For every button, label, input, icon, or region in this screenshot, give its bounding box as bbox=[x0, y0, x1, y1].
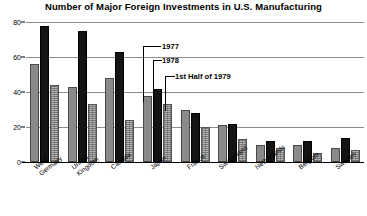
bar-group bbox=[327, 22, 365, 162]
y-tick-label-60: 60 bbox=[13, 54, 21, 61]
bar bbox=[181, 110, 190, 163]
x-label-cell: Canada bbox=[101, 163, 139, 216]
bar bbox=[218, 125, 227, 162]
x-label-cell: WestGermany bbox=[26, 163, 64, 216]
bar-group bbox=[289, 22, 327, 162]
y-tick-label-80: 80 bbox=[13, 19, 21, 26]
bar bbox=[293, 145, 302, 163]
x-label-cell: Belgium bbox=[289, 163, 327, 216]
x-label-cell: France bbox=[176, 163, 214, 216]
bar bbox=[163, 104, 172, 162]
x-label-cell: Netherlands bbox=[251, 163, 289, 216]
y-tick-label-0: 0 bbox=[17, 159, 21, 166]
y-tick-mark-20 bbox=[21, 127, 25, 128]
y-tick-mark-40 bbox=[21, 92, 25, 93]
bar bbox=[68, 87, 77, 162]
bar bbox=[105, 78, 114, 162]
bar bbox=[40, 26, 49, 163]
plot-area: 020406080 bbox=[26, 22, 364, 162]
y-tick-mark-60 bbox=[21, 57, 25, 58]
bar-group bbox=[176, 22, 214, 162]
x-axis-labels: WestGermanyUnitedKingdomCanadaJapanFranc… bbox=[26, 163, 364, 216]
x-label-cell: Japan bbox=[139, 163, 177, 216]
bar bbox=[153, 89, 162, 163]
bar-chart: Number of Major Foreign Investments in U… bbox=[0, 0, 367, 216]
chart-title: Number of Major Foreign Investments in U… bbox=[0, 1, 367, 12]
bar-group bbox=[26, 22, 64, 162]
y-tick-label-20: 20 bbox=[13, 124, 21, 131]
bar bbox=[143, 96, 152, 163]
bar bbox=[78, 31, 87, 162]
y-tick-mark-80 bbox=[21, 22, 25, 23]
bar-group bbox=[64, 22, 102, 162]
bar-group bbox=[251, 22, 289, 162]
x-label-cell: Sweden bbox=[327, 163, 365, 216]
bar-group bbox=[139, 22, 177, 162]
bar-group bbox=[101, 22, 139, 162]
x-label-cell: Switzerland bbox=[214, 163, 252, 216]
y-tick-label-40: 40 bbox=[13, 89, 21, 96]
x-label-cell: UnitedKingdom bbox=[64, 163, 102, 216]
bar bbox=[115, 52, 124, 162]
bar-groups bbox=[26, 22, 364, 162]
bar bbox=[30, 64, 39, 162]
bar-group bbox=[214, 22, 252, 162]
